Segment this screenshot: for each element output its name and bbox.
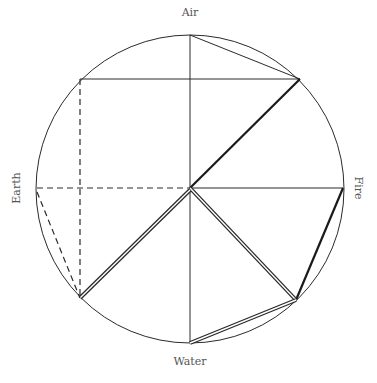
label-air: Air [181, 6, 199, 19]
fire-to-lower-right-thick [296, 188, 343, 300]
label-fire: Fire [352, 177, 365, 200]
center-to-upper-right-thick [190, 79, 300, 188]
lower-right-to-water-double [190, 300, 296, 343]
label-water: Water [173, 355, 207, 368]
center-to-lower-left-double [80, 190, 190, 298]
elements-diagram: Air Water Earth Fire [0, 0, 377, 383]
center-to-lower-right-double [190, 188, 296, 300]
label-earth: Earth [10, 172, 23, 203]
air-to-upper-right [190, 35, 300, 79]
